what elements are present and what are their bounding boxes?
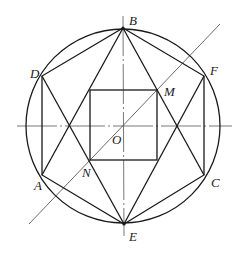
label-c: C bbox=[211, 176, 220, 189]
label-m: M bbox=[164, 85, 175, 98]
label-n: N bbox=[82, 166, 91, 179]
line-b-c bbox=[123, 28, 204, 175]
line-b-a bbox=[42, 28, 123, 175]
vertical-axis bbox=[123, 16, 124, 236]
label-d: D bbox=[30, 67, 39, 80]
label-a: A bbox=[34, 179, 42, 192]
label-e: E bbox=[129, 230, 137, 243]
label-o: O bbox=[112, 133, 121, 146]
point-e bbox=[122, 222, 125, 225]
label-f: F bbox=[210, 64, 218, 77]
geometry-diagram: B D F M O N A C E bbox=[0, 0, 243, 255]
label-b: B bbox=[129, 14, 137, 27]
diagram-svg bbox=[0, 0, 243, 255]
line-e-d bbox=[42, 76, 124, 224]
point-b bbox=[121, 26, 124, 29]
